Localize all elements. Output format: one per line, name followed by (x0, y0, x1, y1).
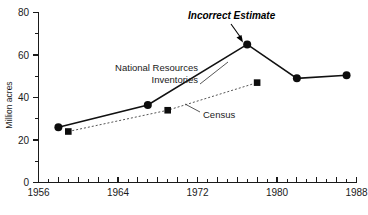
data-point (54, 123, 62, 131)
y-tick-label-60: 60 (18, 50, 30, 61)
y-axis-title: Million acres (4, 81, 14, 128)
annotation-label: Incorrect Estimate (188, 10, 276, 21)
census-label-leader (185, 104, 200, 112)
annotation-incorrect-estimate: Incorrect Estimate (188, 10, 276, 43)
x-tick-label-1964: 1964 (107, 187, 130, 198)
line-chart: 80 60 40 20 0 Million acres (0, 0, 368, 215)
data-point (343, 71, 351, 79)
y-axis-tick-labels: 80 60 40 20 0 (18, 7, 30, 188)
series-census (65, 79, 260, 134)
census-line (68, 83, 257, 132)
y-tick-label-80: 80 (18, 7, 30, 18)
data-point (144, 101, 152, 109)
data-point (164, 107, 171, 114)
y-axis-ticks (33, 13, 39, 183)
data-point (293, 74, 301, 82)
annotation-arrow-head (237, 35, 244, 43)
data-point (254, 79, 261, 86)
data-point (243, 40, 251, 48)
series-label-census: Census (185, 104, 235, 120)
x-tick-label-1980: 1980 (266, 187, 289, 198)
x-tick-label-1972: 1972 (186, 187, 209, 198)
annotation-arrow-shaft (231, 24, 241, 38)
nri-label-line1: National Resources (115, 62, 198, 73)
y-tick-label-40: 40 (18, 92, 30, 103)
axes-group (39, 13, 357, 183)
x-axis-tick-labels: 1956 1964 1972 1980 1988 (27, 187, 368, 198)
nri-label-line2: Inventories (152, 74, 199, 85)
census-label: Census (203, 109, 235, 120)
chart-canvas: 80 60 40 20 0 Million acres (0, 0, 368, 215)
x-axis-ticks (39, 177, 357, 183)
y-tick-label-20: 20 (18, 135, 30, 146)
data-point (65, 128, 72, 135)
series-label-nri: National Resources Inventories (115, 62, 228, 85)
x-tick-label-1988: 1988 (345, 187, 368, 198)
x-tick-label-1956: 1956 (27, 187, 50, 198)
census-markers (65, 79, 260, 134)
